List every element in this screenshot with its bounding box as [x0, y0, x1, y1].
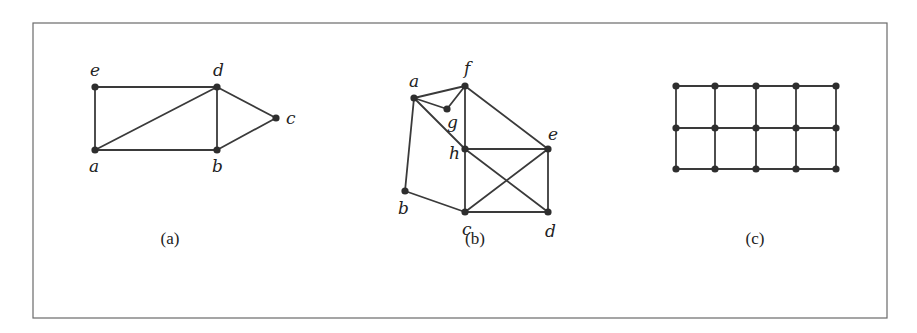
- edge-a-b: [405, 98, 414, 191]
- node-label: f: [462, 58, 473, 78]
- edge-f-e: [465, 86, 548, 149]
- node-label: d: [213, 60, 224, 80]
- edge-d-c: [217, 87, 276, 118]
- node-label: b: [212, 156, 223, 176]
- graph-node: [752, 165, 759, 172]
- edge-b-c: [405, 191, 465, 212]
- node-label: d: [545, 221, 556, 241]
- caption-c: (c): [746, 229, 765, 248]
- caption-a: (a): [161, 229, 180, 248]
- graph-node: [711, 82, 718, 89]
- node-f: [461, 82, 468, 89]
- edge-b-c: [217, 118, 276, 150]
- graph-node: [792, 165, 799, 172]
- node-label: g: [447, 112, 458, 132]
- graph-c-grid: (c): [672, 82, 839, 248]
- graph-node: [711, 124, 718, 131]
- graph-node: [711, 165, 718, 172]
- graph-node: [832, 124, 839, 131]
- graph-node: [752, 124, 759, 131]
- node-d: [213, 83, 220, 90]
- graph-b: afghebcd(b): [398, 58, 558, 248]
- node-label: e: [548, 124, 558, 144]
- graph-figure: edcab(a) afghebcd(b) (c): [0, 0, 917, 333]
- node-h: [461, 145, 468, 152]
- node-label: b: [398, 198, 409, 218]
- edge-a-d: [95, 87, 217, 150]
- node-b: [213, 146, 220, 153]
- node-b: [401, 187, 408, 194]
- node-a: [91, 146, 98, 153]
- graph-node: [672, 124, 679, 131]
- nodes: edcab: [89, 60, 296, 176]
- node-e: [544, 145, 551, 152]
- edges: [95, 87, 276, 150]
- graph-node: [752, 82, 759, 89]
- caption-b: (b): [465, 229, 485, 248]
- graph-node: [792, 82, 799, 89]
- node-c: [461, 208, 468, 215]
- graph-node: [832, 82, 839, 89]
- graph-a: edcab(a): [89, 60, 296, 248]
- node-label: h: [449, 143, 460, 163]
- node-e: [91, 83, 98, 90]
- node-c: [272, 114, 279, 121]
- node-a: [410, 94, 417, 101]
- graph-node: [832, 165, 839, 172]
- graph-node: [792, 124, 799, 131]
- node-label: c: [286, 108, 296, 128]
- graph-node: [672, 82, 679, 89]
- node-label: e: [90, 60, 100, 80]
- edges: [405, 86, 548, 212]
- node-label: a: [409, 71, 419, 91]
- node-d: [544, 208, 551, 215]
- graph-node: [672, 165, 679, 172]
- node-label: a: [89, 156, 99, 176]
